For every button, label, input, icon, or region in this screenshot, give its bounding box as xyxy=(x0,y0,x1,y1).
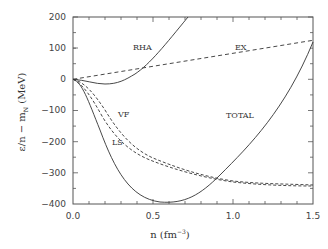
y-tick: −200 xyxy=(41,137,66,147)
curve-vf xyxy=(73,79,313,185)
y-tick-labels: 200 100 0 −100 −200 −300 −400 xyxy=(41,12,66,209)
y-tick: −300 xyxy=(41,168,66,178)
y-tick: −100 xyxy=(41,105,66,115)
label-ls: LS xyxy=(112,138,123,147)
label-rha: RHA xyxy=(133,43,152,52)
x-tick: 0.0 xyxy=(66,211,81,221)
y-axis xyxy=(73,17,313,188)
label-vf: VF xyxy=(117,110,130,119)
y-tick: 0 xyxy=(60,74,66,84)
label-total: TOTAL xyxy=(226,111,255,120)
curve-total xyxy=(73,42,313,202)
chart: 200 100 0 −100 −200 −300 −400 0.0 0.5 1.… xyxy=(0,0,328,249)
curve-ex xyxy=(73,40,313,79)
x-tick: 1.0 xyxy=(226,211,241,221)
plot-frame xyxy=(73,17,313,204)
curve-rha xyxy=(73,17,188,84)
x-axis-title: n (fm−3) xyxy=(150,228,190,240)
x-tick-labels: 0.0 0.5 1.0 1.5 xyxy=(66,211,320,221)
label-ex: EX xyxy=(235,43,247,52)
x-tick: 0.5 xyxy=(146,211,160,221)
y-tick: 200 xyxy=(49,12,66,22)
y-tick: 100 xyxy=(49,43,66,53)
curve-ls xyxy=(73,79,313,186)
x-tick: 1.5 xyxy=(306,211,320,221)
y-tick: −400 xyxy=(41,199,66,209)
y-axis-title: ε/n − mN (MeV) xyxy=(16,72,29,151)
